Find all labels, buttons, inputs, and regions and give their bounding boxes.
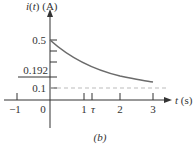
x-axis-arrow-icon	[164, 97, 172, 103]
y-axis-label: i(t) (A)	[26, 0, 58, 13]
y-tick-label-0.1: 0.1	[32, 82, 46, 94]
figure-caption: (b)	[94, 131, 107, 144]
decay-curve	[50, 40, 153, 82]
x-tick-label-2: 2	[117, 103, 123, 115]
x-tick-label-0: 0	[40, 103, 46, 115]
x-tick-label-1: 1	[81, 103, 87, 115]
x-ticks	[17, 93, 153, 100]
y-tick-label-0.192: 0.192	[23, 64, 48, 76]
y-tick-label-0.5: 0.5	[32, 34, 46, 46]
current-decay-chart: i(t) (A) 0.5 0.192 0.1 −1 0 1 τ 2 3 t (s…	[0, 0, 195, 148]
x-axis-label: t (s)	[175, 94, 193, 107]
y-ticks	[50, 40, 57, 88]
x-tick-label-neg1: −1	[9, 103, 21, 115]
x-tick-label-tau: τ	[91, 103, 96, 115]
x-tick-label-3: 3	[150, 103, 156, 115]
